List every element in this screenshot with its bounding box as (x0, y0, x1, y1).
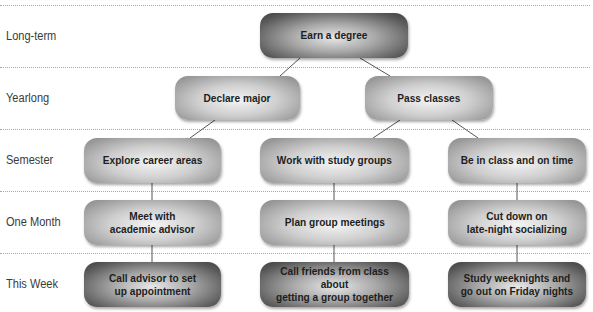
edge-pass-inclass (452, 120, 478, 138)
edge-declare-explore (190, 120, 215, 138)
edge-earn-declare (280, 58, 300, 76)
node-label: Explore career areas (103, 154, 203, 167)
node-label: Plan group meetings (284, 216, 384, 229)
node-explore-career: Explore career areas (84, 138, 221, 183)
node-label: Call advisor to set up appointment (109, 272, 196, 298)
row-label-long-term: Long-term (6, 29, 56, 43)
row-label-yearlong: Yearlong (6, 91, 49, 105)
node-label: Declare major (204, 92, 271, 105)
node-label: Call friends from class about getting a … (269, 265, 400, 304)
node-call-friends: Call friends from class about getting a … (260, 262, 409, 307)
node-pass-classes: Pass classes (365, 76, 493, 120)
node-cut-socializing: Cut down on late-night socializing (448, 200, 586, 245)
node-study-groups: Work with study groups (260, 138, 409, 183)
node-in-class: Be in class and on time (448, 138, 586, 183)
node-label: Be in class and on time (461, 154, 573, 167)
node-study-weeknights: Study weeknights and go out on Friday ni… (448, 262, 586, 307)
node-label: Study weeknights and go out on Friday ni… (461, 272, 573, 298)
node-declare-major: Declare major (175, 76, 300, 120)
node-label: Work with study groups (277, 154, 392, 167)
node-meet-advisor: Meet with academic advisor (84, 200, 221, 245)
row-label-this-week: This Week (6, 277, 58, 291)
node-label: Meet with academic advisor (110, 210, 195, 236)
row-label-one-month: One Month (6, 215, 61, 229)
node-earn-degree: Earn a degree (260, 13, 408, 58)
node-call-advisor: Call advisor to set up appointment (84, 262, 221, 307)
edge-pass-study (373, 120, 400, 138)
node-plan-meetings: Plan group meetings (260, 200, 409, 245)
edge-earn-pass (360, 58, 390, 76)
node-label: Pass classes (397, 92, 460, 105)
node-label: Earn a degree (301, 29, 368, 42)
node-label: Cut down on late-night socializing (467, 210, 567, 236)
row-label-semester: Semester (6, 153, 53, 167)
